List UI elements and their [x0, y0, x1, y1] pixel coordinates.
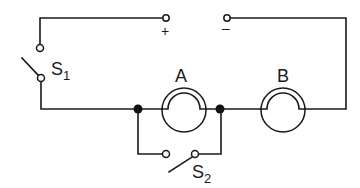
- lamp-a-bulb: [162, 88, 206, 132]
- lamp-b-label: B: [277, 66, 289, 86]
- s1-top-contact: [37, 45, 44, 52]
- s2-lever: [169, 157, 192, 172]
- s2-left-wire: [138, 109, 163, 154]
- positive-label: +: [161, 23, 169, 39]
- wire-top-left: [40, 18, 163, 44]
- lamp-b: B: [261, 66, 305, 132]
- circuit-diagram: + – S1 A B S2: [0, 0, 360, 188]
- negative-label: –: [222, 20, 230, 36]
- wire-bottom-left: [41, 82, 162, 109]
- s2-left-contact: [163, 151, 170, 158]
- positive-terminal: [163, 15, 169, 21]
- lamp-a: A: [162, 66, 261, 132]
- lamp-b-bulb: [261, 88, 305, 132]
- switch-s1: S1: [22, 45, 70, 84]
- s1-lever: [22, 58, 38, 75]
- lamp-a-label: A: [175, 66, 187, 86]
- s2-label: S2: [192, 162, 211, 186]
- s1-label: S1: [51, 59, 70, 83]
